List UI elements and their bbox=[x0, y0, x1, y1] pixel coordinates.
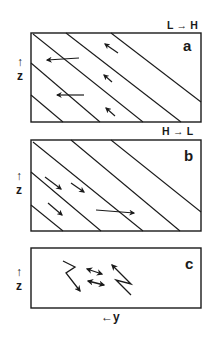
arrow-downright-3 bbox=[48, 203, 62, 215]
double-arrow-lower bbox=[88, 281, 104, 285]
panel-b-flow-arrows bbox=[45, 177, 134, 215]
panel-a-flow-arrows bbox=[47, 44, 118, 116]
panel-a-z-arrow-icon: ↑ bbox=[17, 56, 23, 68]
panel-b-letter: b bbox=[184, 148, 193, 163]
zigzag-arrow-down bbox=[63, 261, 80, 291]
panel-c-frame bbox=[31, 248, 201, 308]
panel-c-arrows bbox=[63, 261, 131, 295]
arrow-downright-1 bbox=[45, 177, 61, 189]
panel-c-z-label: z bbox=[16, 280, 22, 292]
y-axis-arrow-icon: ← bbox=[101, 310, 113, 324]
panel-c-letter: c bbox=[185, 256, 193, 271]
arrow-upleft-1 bbox=[105, 44, 118, 53]
arrow-right-long bbox=[96, 210, 134, 213]
arrow-downright-2 bbox=[71, 183, 84, 192]
panel-b bbox=[31, 140, 201, 231]
panel-a-letter: a bbox=[183, 38, 191, 53]
panel-b-corner-label: H → L bbox=[162, 126, 193, 137]
arrow-upleft-3 bbox=[106, 108, 115, 116]
panel-c bbox=[31, 248, 201, 308]
panel-a-frame bbox=[31, 33, 201, 122]
panel-b-z-label: z bbox=[16, 184, 22, 196]
panel-a bbox=[31, 33, 201, 122]
diagram-canvas bbox=[0, 0, 214, 342]
double-arrow-upper bbox=[87, 269, 102, 274]
y-axis-label: ←y bbox=[101, 311, 120, 323]
arrow-upleft-2 bbox=[104, 75, 112, 82]
y-axis-text: y bbox=[113, 310, 120, 324]
panel-a-z-label: z bbox=[17, 70, 23, 82]
zigzag-arrow-up bbox=[112, 265, 131, 295]
panel-a-isentropes bbox=[31, 33, 201, 122]
panel-a-corner-label: L → H bbox=[167, 20, 198, 31]
panel-b-z-arrow-icon: ↑ bbox=[16, 170, 22, 182]
panel-c-z-arrow-icon: ↑ bbox=[16, 266, 22, 278]
